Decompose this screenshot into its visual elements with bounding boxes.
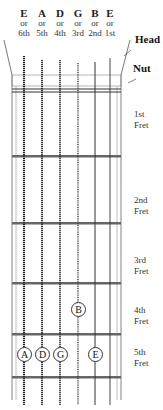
fret-word: Fret: [134, 120, 149, 130]
fret-word: Fret: [134, 206, 149, 216]
fret-word: Fret: [134, 266, 149, 276]
fret-label-1: 1st Fret: [134, 109, 149, 131]
fret-number: 3rd: [134, 255, 146, 265]
note-marker-g: G: [53, 347, 68, 362]
fret-label-2: 2nd Fret: [134, 195, 149, 217]
note-marker-e: E: [88, 347, 103, 362]
note-marker-b: B: [71, 302, 86, 317]
note-marker-d: D: [35, 347, 50, 362]
fret-label-3: 3rd Fret: [134, 255, 149, 277]
fret-label-5: 5th Fret: [134, 347, 149, 369]
nut-label: Nut: [133, 63, 151, 74]
fret-number: 4th: [134, 305, 146, 315]
fret-word: Fret: [134, 358, 149, 368]
fret-number: 5th: [134, 347, 146, 357]
fret-label-4: 4th Fret: [134, 305, 149, 327]
head-label: Head: [135, 34, 160, 45]
note-marker-a: A: [17, 347, 32, 362]
fret-number: 2nd: [134, 195, 148, 205]
fret-word: Fret: [134, 316, 149, 326]
fret-number: 1st: [134, 109, 145, 119]
